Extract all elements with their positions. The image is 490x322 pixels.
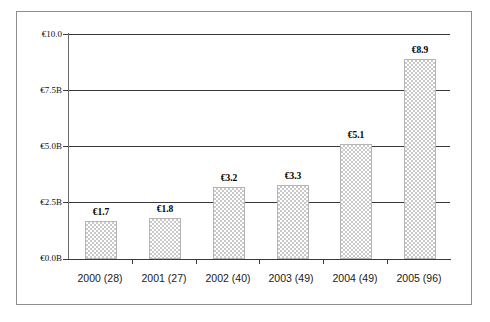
bar[interactable] (85, 221, 117, 259)
x-axis-tick-label: 2001 (27) (132, 272, 196, 284)
y-axis-tick-label: €5.0B (18, 141, 62, 151)
plot-area (68, 34, 450, 259)
y-axis-labels: €10.0 €7.5B €5.0B €2.5B €0.0B (14, 0, 62, 322)
bar-value-label: €1.8 (133, 204, 197, 214)
x-axis-tick-label: 2000 (28) (68, 272, 132, 284)
bar-value-label: €3.2 (197, 173, 261, 183)
x-axis-tick-mark (387, 259, 388, 264)
x-axis-tick-label: 2002 (40) (196, 272, 260, 284)
x-axis-tick-label: 2003 (49) (259, 272, 323, 284)
y-axis-tick-label: €0.0B (18, 253, 62, 263)
bar[interactable] (149, 218, 181, 259)
y-axis-tick-label: €2.5B (18, 197, 62, 207)
x-axis-tick-mark (132, 259, 133, 264)
bar[interactable] (277, 185, 309, 259)
y-axis-tick-label: €10.0 (18, 29, 62, 39)
y-axis-tick-label: €7.5B (18, 85, 62, 95)
bar[interactable] (404, 59, 436, 259)
x-axis-tick-label: 2004 (49) (323, 272, 387, 284)
x-axis-tick-mark (196, 259, 197, 264)
bar-value-label: €5.1 (324, 130, 388, 140)
bar[interactable] (340, 144, 372, 259)
x-axis-tick-mark (259, 259, 260, 264)
bar-value-label: €1.7 (69, 207, 133, 217)
x-axis-tick-mark (323, 259, 324, 264)
bar[interactable] (213, 187, 245, 259)
bar-value-label: €8.9 (388, 45, 452, 55)
x-axis-tick-label: 2005 (96) (387, 272, 451, 284)
bar-value-label: €3.3 (261, 171, 325, 181)
